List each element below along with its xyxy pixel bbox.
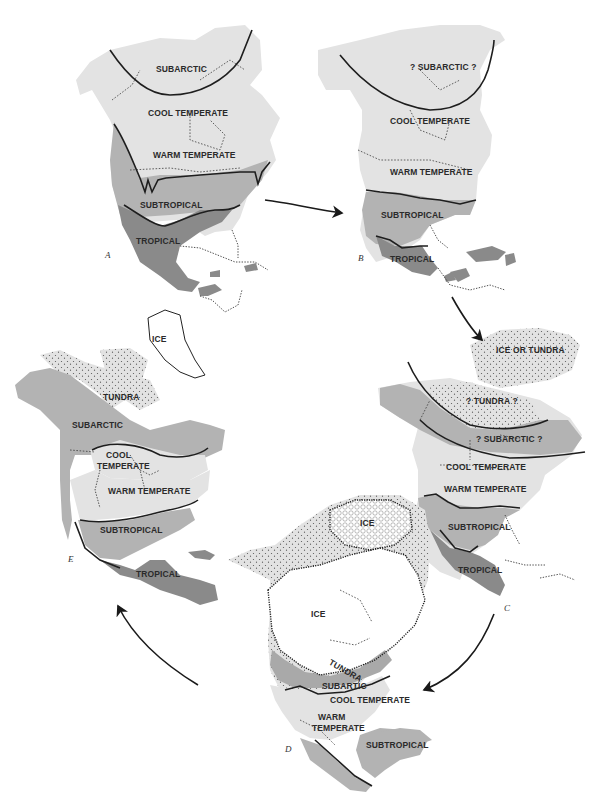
panel-a-coast (180, 230, 268, 312)
panel-b-letter: B (358, 253, 364, 263)
panel-c-label-subtropical: SUBTROPICAL (448, 522, 511, 532)
panel-b: ? SUBARCTIC ? COOL TEMPERATE WARM TEMPER… (318, 25, 516, 290)
panel-b-label-warm-temperate: WARM TEMPERATE (390, 167, 473, 177)
panel-c-label-warm-temperate: WARM TEMPERATE (444, 484, 527, 494)
panel-e-label-temperate: TEMPERATE (97, 461, 150, 471)
panel-e-caribbean (188, 550, 215, 560)
panel-d-label-cool-temperate: COOL TEMPERATE (330, 695, 410, 705)
panel-c-label-tropical: TROPICAL (458, 565, 502, 575)
panel-b-label-subtropical: SUBTROPICAL (381, 210, 444, 220)
panel-e-label-subtropical: SUBTROPICAL (100, 525, 163, 535)
panel-e: ICE TUNDRA SUBARCTIC COOL TEMPERATE WARM… (15, 310, 225, 605)
panel-d-letter: D (284, 744, 292, 754)
panel-c-label-ice-or-tundra: ICE OR TUNDRA (496, 345, 565, 355)
arrow-a-to-b (265, 200, 342, 213)
panel-e-label-tundra: TUNDRA (103, 392, 139, 402)
panel-a-label-cool-temperate: COOL TEMPERATE (148, 108, 228, 118)
panel-c-coast (505, 515, 575, 580)
panel-d-label-ice: ICE (311, 609, 326, 619)
panel-e-label-ice: ICE (152, 334, 167, 344)
panel-c-ice-greenland (470, 328, 580, 388)
panel-b-label-cool-temperate: COOL TEMPERATE (390, 116, 470, 126)
panel-a-label-subtropical: SUBTROPICAL (140, 200, 203, 210)
arrow-c-to-d (424, 614, 494, 690)
panel-b-label-tropical: TROPICAL (390, 254, 434, 264)
panel-e-letter: E (67, 554, 74, 564)
arrow-b-to-c (452, 297, 482, 340)
panel-c-label-subarctic: ? SUBARCTIC ? (476, 434, 542, 444)
panel-b-cuba (466, 246, 506, 262)
panel-d-label-warm: WARM (318, 712, 345, 722)
climate-zone-figure: SUBARCTIC COOL TEMPERATE WARM TEMPERATE … (0, 0, 592, 796)
panel-d: ICE ICE TUNDRA SUBARTIC COOL TEMPERATE W… (228, 495, 432, 792)
panel-a-caribbean-2 (244, 263, 258, 272)
panel-d-label-subartic: SUBARTIC (322, 681, 367, 691)
panel-e-label-warm-temperate: WARM TEMPERATE (108, 486, 191, 496)
panel-e-label-subarctic: SUBARCTIC (72, 420, 123, 430)
panel-d-label-ice-greenland: ICE (360, 518, 375, 528)
panel-b-bahamas (505, 253, 516, 266)
panel-e-label-cool: COOL (106, 450, 131, 460)
panel-a-label-tropical: TROPICAL (136, 236, 180, 246)
panel-c-letter: C (504, 603, 511, 613)
panel-a-letter: A (104, 250, 111, 260)
panel-d-label-subtropical: SUBTROPICAL (366, 740, 429, 750)
panel-e-label-tropical: TROPICAL (136, 569, 180, 579)
panel-a-label-subarctic: SUBARCTIC (156, 64, 207, 74)
panel-a-caribbean-1 (198, 284, 222, 296)
panel-e-greenland-ice (148, 310, 205, 378)
panel-d-label-temperate: TEMPERATE (312, 723, 365, 733)
panel-c-label-tundra: ? TUNDRA ? (466, 396, 518, 406)
arrow-d-to-e (118, 606, 198, 685)
panel-a: SUBARCTIC COOL TEMPERATE WARM TEMPERATE … (76, 25, 280, 312)
panel-a-caribbean-3 (210, 270, 220, 277)
panel-b-label-subarctic: ? SUBARCTIC ? (410, 62, 476, 72)
panel-c-label-cool-temperate: COOL TEMPERATE (446, 462, 526, 472)
panel-a-label-warm-temperate: WARM TEMPERATE (153, 150, 236, 160)
